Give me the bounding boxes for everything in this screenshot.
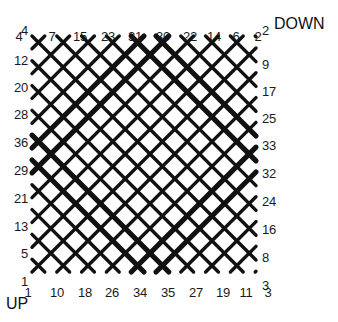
top-endpoint-2: 2 [254, 30, 261, 43]
right-endpoint-8: 8 [262, 251, 269, 264]
right-endpoint-16: 16 [262, 223, 276, 236]
bottom-endpoint-19: 19 [216, 286, 230, 299]
left-endpoint-29: 29 [14, 164, 28, 177]
top-endpoint-30: 30 [156, 30, 170, 43]
strand-up-right-34 [131, 147, 256, 272]
strand-up-right-10 [57, 73, 256, 272]
top-endpoint-6: 6 [232, 30, 239, 43]
left-endpoint-13: 13 [14, 220, 28, 233]
right-endpoint-2: 2 [262, 24, 269, 37]
right-endpoint-32: 32 [262, 167, 276, 180]
strand-up-right-3 [255, 271, 256, 272]
left-endpoint-1: 1 [21, 275, 28, 288]
top-endpoint-31: 31 [128, 30, 142, 43]
left-endpoint-4: 4 [21, 24, 28, 37]
strand-down-right-4 [32, 36, 256, 260]
right-endpoint-33: 33 [262, 139, 276, 152]
top-endpoint-7: 7 [48, 30, 55, 43]
left-endpoint-20: 20 [14, 81, 28, 94]
strand-up-right-1 [32, 48, 256, 272]
bottom-endpoint-18: 18 [78, 286, 92, 299]
bottom-endpoint-35: 35 [161, 286, 175, 299]
top-endpoint-14: 14 [207, 30, 221, 43]
bottom-endpoint-10: 10 [50, 286, 64, 299]
left-endpoint-36: 36 [14, 136, 28, 149]
right-endpoint-3: 3 [262, 279, 269, 292]
strand-up-right-11 [230, 246, 256, 272]
left-endpoint-28: 28 [14, 108, 28, 121]
bottom-endpoint-26: 26 [105, 286, 119, 299]
right-endpoint-17: 17 [262, 85, 276, 98]
left-endpoint-12: 12 [14, 54, 28, 67]
top-endpoint-22: 22 [183, 30, 197, 43]
down-label: DOWN [274, 16, 325, 32]
strand-up-right-19 [206, 222, 256, 272]
left-endpoint-21: 21 [14, 192, 28, 205]
up-label: UP [6, 296, 28, 312]
bottom-endpoint-34: 34 [133, 286, 147, 299]
top-endpoint-23: 23 [101, 30, 115, 43]
right-endpoint-24: 24 [262, 195, 276, 208]
right-endpoint-25: 25 [262, 112, 276, 125]
bottom-endpoint-11: 11 [239, 286, 252, 299]
braid-diagram: 4715233130221462110182634352719113412202… [0, 0, 338, 322]
top-endpoint-15: 15 [73, 30, 87, 43]
braid-lattice-lines [0, 0, 338, 322]
left-endpoint-5: 5 [21, 247, 28, 260]
bottom-endpoint-27: 27 [189, 286, 203, 299]
right-endpoint-9: 9 [262, 58, 269, 71]
